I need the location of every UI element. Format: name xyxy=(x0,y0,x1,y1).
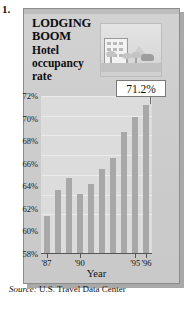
panel-top-band xyxy=(24,9,179,14)
callout-box: 71.2% xyxy=(116,80,166,97)
title-block: LODGING BOOM Hotel occupancy rate xyxy=(32,17,110,83)
palm-frond-icon xyxy=(131,52,141,58)
y-axis-tick-label: 58% xyxy=(22,249,38,259)
source-text: U.S. Travel Data Center xyxy=(39,284,126,294)
y-axis-tick-label: 70% xyxy=(22,114,38,124)
x-axis-tick-label: '95 xyxy=(130,258,140,268)
y-axis-tick-label: 66% xyxy=(22,159,38,169)
bar xyxy=(121,132,127,254)
subtitle-line-2: occupancy xyxy=(32,57,110,70)
callout-value: 71.2% xyxy=(126,83,156,95)
subtitle-line-1: Hotel xyxy=(32,44,110,57)
source-note: Source: U.S. Travel Data Center xyxy=(9,284,139,295)
chart-plot-area xyxy=(41,96,152,254)
x-axis-title: Year xyxy=(41,268,152,279)
bar xyxy=(66,178,72,254)
callout-leader-line xyxy=(150,96,151,104)
bar xyxy=(44,216,50,254)
hotel-street-scene-illustration xyxy=(100,23,162,77)
x-axis-tick-label: '90 xyxy=(75,258,85,268)
car-icon xyxy=(141,54,154,61)
y-axis-tick-label: 62% xyxy=(22,204,38,214)
palm-frond-icon xyxy=(106,51,116,57)
bar xyxy=(132,117,138,254)
source-prefix: Source: xyxy=(9,284,37,294)
bar xyxy=(77,194,83,254)
title-line-2: BOOM xyxy=(32,30,110,43)
y-axis-tick-label: 60% xyxy=(22,226,38,236)
y-axis-labels: 58%60%62%64%66%68%70%72% xyxy=(0,88,40,264)
figure-number: 1. xyxy=(2,3,10,15)
bar xyxy=(143,105,149,254)
y-axis-tick-label: 64% xyxy=(22,181,38,191)
road-shape xyxy=(101,63,161,72)
x-axis-tick-label: '87 xyxy=(42,258,52,268)
y-axis-tick-label: 72% xyxy=(22,91,38,101)
y-axis-tick-label: 68% xyxy=(22,136,38,146)
bar xyxy=(55,190,61,254)
x-axis-tick-label: '96 xyxy=(141,258,151,268)
subtitle-line-3: rate xyxy=(32,70,110,83)
bar xyxy=(88,184,94,254)
bar xyxy=(110,158,116,254)
bar xyxy=(99,169,105,254)
